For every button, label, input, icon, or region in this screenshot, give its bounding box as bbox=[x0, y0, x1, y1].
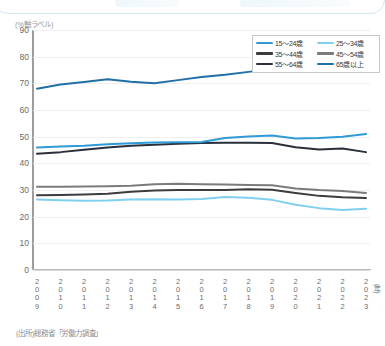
y-tick-label-40: 40 bbox=[20, 158, 29, 168]
x-tick-label-2022: 2022 bbox=[336, 278, 350, 311]
gridline-0 bbox=[33, 270, 370, 271]
x-tick-label-2021: 2021 bbox=[312, 278, 326, 311]
y-tick-label-20: 20 bbox=[20, 212, 29, 222]
legend-label: 25～34歳 bbox=[336, 38, 364, 48]
y-tick-label-90: 90 bbox=[20, 25, 29, 35]
legend-label: 15～24歳 bbox=[275, 38, 303, 48]
legend-swatch-icon bbox=[256, 42, 273, 44]
legend-swatch-icon bbox=[317, 63, 334, 65]
legend-swatch-icon bbox=[317, 42, 334, 44]
x-tick-label-2018: 2018 bbox=[242, 278, 256, 311]
x-tick-label-2013: 2013 bbox=[124, 278, 138, 311]
legend-item-45～54歳[interactable]: 45～54歳 bbox=[317, 49, 376, 59]
x-tick-label-2017: 2017 bbox=[218, 278, 232, 311]
legend-item-65歳以上[interactable]: 65歳以上 bbox=[317, 59, 376, 69]
legend-label: 65歳以上 bbox=[336, 59, 363, 69]
top-panel-cutoff bbox=[0, 0, 385, 14]
y-tick-label-50: 50 bbox=[20, 132, 29, 142]
x-tick-label-2023: 2023 bbox=[359, 278, 373, 311]
x-axis-unit-label: (年) bbox=[372, 284, 382, 293]
legend-item-35～44歳[interactable]: 35～44歳 bbox=[256, 49, 315, 59]
series-line-25～34歳 bbox=[37, 197, 366, 210]
source-note: (出所)総務省「労働力調査」 bbox=[16, 327, 102, 338]
x-tick-label-2010: 2010 bbox=[54, 278, 68, 311]
y-tick-label-30: 30 bbox=[20, 185, 29, 195]
y-tick-label-10: 10 bbox=[20, 238, 29, 248]
legend-item-25～34歳[interactable]: 25～34歳 bbox=[317, 38, 376, 48]
x-tick-label-2020: 2020 bbox=[289, 278, 303, 311]
x-tick-label-2015: 2015 bbox=[171, 278, 185, 311]
chart-container: (%軸ラベル) 0102030405060708090 200920102011… bbox=[0, 16, 385, 312]
legend-item-15～24歳[interactable]: 15～24歳 bbox=[256, 38, 315, 48]
x-tick-label-2012: 2012 bbox=[101, 278, 115, 311]
x-tick-label-2016: 2016 bbox=[195, 278, 209, 311]
x-tick-label-2009: 2009 bbox=[30, 278, 44, 311]
x-tick-label-2011: 2011 bbox=[77, 278, 91, 311]
y-tick-label-0: 0 bbox=[24, 265, 29, 275]
legend-swatch-icon bbox=[317, 52, 334, 54]
legend-label: 45～54歳 bbox=[336, 49, 364, 59]
series-line-55～64歳 bbox=[37, 143, 366, 154]
x-axis-tick-labels: 2009201020112012201320142015201620172018… bbox=[33, 278, 370, 320]
legend-label: 55～64歳 bbox=[275, 59, 303, 69]
legend-label: 35～44歳 bbox=[275, 49, 303, 59]
chart-legend: 15～24歳25～34歳35～44歳45～54歳55～64歳65歳以上 bbox=[252, 35, 380, 73]
panel-placeholder-left bbox=[115, 0, 179, 7]
series-line-45～54歳 bbox=[37, 184, 366, 193]
y-tick-label-70: 70 bbox=[20, 78, 29, 88]
panel-placeholder-right bbox=[240, 0, 350, 7]
legend-swatch-icon bbox=[256, 52, 273, 54]
x-tick-label-2019: 2019 bbox=[265, 278, 279, 311]
legend-swatch-icon bbox=[256, 63, 273, 65]
y-tick-label-80: 80 bbox=[20, 52, 29, 62]
legend-item-55～64歳[interactable]: 55～64歳 bbox=[256, 59, 315, 69]
y-tick-label-60: 60 bbox=[20, 105, 29, 115]
series-line-15～24歳 bbox=[37, 134, 366, 148]
x-tick-label-2014: 2014 bbox=[148, 278, 162, 311]
